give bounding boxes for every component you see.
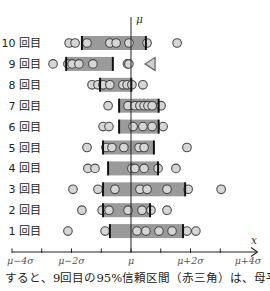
- sample-point: [163, 185, 172, 194]
- sample-point: [133, 227, 142, 236]
- sample-point: [155, 227, 164, 236]
- sample-point: [172, 164, 181, 173]
- sample-point: [139, 122, 148, 131]
- row-label: 9 回目: [9, 58, 42, 71]
- sample-point: [71, 39, 80, 48]
- sample-point: [217, 185, 226, 194]
- sample-point: [75, 60, 84, 69]
- sample-point: [83, 143, 92, 152]
- row-label: 2 回目: [9, 204, 42, 217]
- x-tick-label: μ+4σ: [235, 255, 262, 266]
- row-label: 5 回目: [9, 142, 42, 155]
- interval-markers: [145, 57, 155, 70]
- sample-point: [140, 143, 149, 152]
- x-tick-label: μ−4σ: [7, 255, 34, 266]
- sample-point: [140, 164, 149, 173]
- sample-point: [159, 122, 168, 131]
- row-label: 7 回目: [9, 100, 42, 113]
- sample-point: [111, 185, 120, 194]
- sample-point: [105, 206, 114, 215]
- sample-point: [142, 227, 151, 236]
- confidence-interval-chart: 10 回目9 回目8 回目7 回目6 回目5 回目4 回目3 回目2 回目1 回…: [0, 0, 270, 268]
- sample-point: [192, 227, 201, 236]
- caption-text: すると、9回目の95%信頼区間（赤三角）は、母平: [5, 270, 270, 286]
- sample-point: [89, 60, 98, 69]
- x-tick-label: μ: [128, 255, 134, 266]
- sample-point: [101, 227, 110, 236]
- sample-point: [64, 227, 73, 236]
- row-label: 10 回目: [2, 37, 42, 50]
- sample-point: [148, 101, 157, 110]
- row-label: 8 回目: [9, 79, 42, 92]
- sample-point: [183, 143, 192, 152]
- sample-point: [168, 227, 177, 236]
- sample-point: [120, 143, 129, 152]
- sample-point: [83, 39, 92, 48]
- sample-point: [125, 60, 134, 69]
- mu-reference-label: μ: [136, 13, 143, 25]
- x-tick-label: μ−2σ: [58, 255, 85, 266]
- sample-point: [104, 101, 113, 110]
- sample-point: [138, 206, 147, 215]
- sample-point: [173, 39, 182, 48]
- sample-point: [78, 206, 87, 215]
- sample-point: [91, 164, 100, 173]
- sample-point: [131, 164, 140, 173]
- sample-point: [143, 185, 152, 194]
- x-axis-label: x: [251, 234, 257, 246]
- sample-point: [105, 122, 114, 131]
- row-label: 6 回目: [9, 121, 42, 134]
- sample-point: [163, 206, 172, 215]
- sample-point: [139, 81, 148, 90]
- sample-point: [106, 81, 115, 90]
- sample-point: [129, 122, 138, 131]
- sample-point: [112, 39, 121, 48]
- sample-point: [143, 39, 152, 48]
- sample-point: [69, 185, 78, 194]
- interval-marker-triangle: [145, 57, 155, 70]
- row-label: 3 回目: [9, 183, 42, 196]
- row-label: 1 回目: [9, 225, 42, 238]
- x-tick-labels: μ−4σμ−2σμμ+2σμ+4σ: [7, 255, 262, 266]
- sample-point: [108, 143, 117, 152]
- row-label: 4 回目: [9, 162, 42, 175]
- x-tick-label: μ+2σ: [177, 255, 204, 266]
- sample-point: [148, 122, 157, 131]
- sample-point: [94, 185, 103, 194]
- sample-point: [125, 39, 134, 48]
- row-labels: 10 回目9 回目8 回目7 回目6 回目5 回目4 回目3 回目2 回目1 回…: [2, 37, 42, 238]
- sample-point: [49, 60, 58, 69]
